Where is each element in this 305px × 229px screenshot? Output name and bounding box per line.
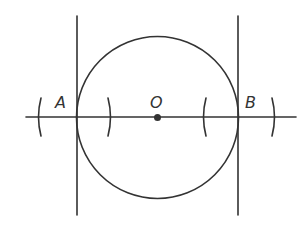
- label-b: B: [245, 93, 256, 112]
- label-o: O: [150, 93, 163, 112]
- diagram-canvas: A O B: [0, 0, 305, 229]
- center-point-o: [154, 114, 161, 121]
- label-a: A: [54, 93, 66, 112]
- geometry-figure: A O B: [0, 0, 305, 229]
